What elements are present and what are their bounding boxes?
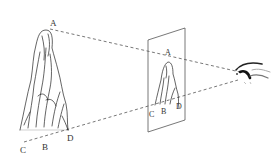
label-plane-b: B [161, 107, 166, 116]
sight-line-top [50, 29, 240, 72]
label-plane-c: C [149, 110, 154, 119]
label-object-c: C [20, 145, 26, 155]
mountain-sketch-large [20, 30, 68, 130]
eye-icon [236, 63, 270, 84]
label-object-d: D [67, 133, 74, 143]
label-object-a: A [50, 18, 57, 28]
label-plane-a: A [165, 48, 171, 57]
label-object-b: B [42, 142, 48, 152]
label-plane-d: D [176, 102, 182, 111]
sight-line-bottom [24, 80, 238, 142]
perspective-diagram: A C B D A C B D [0, 0, 278, 165]
